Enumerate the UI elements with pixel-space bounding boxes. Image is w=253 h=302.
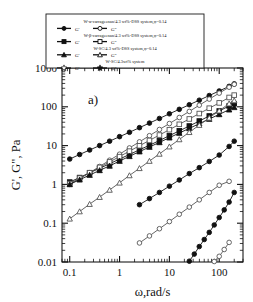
data-point-filled-circle xyxy=(197,98,202,103)
data-point-filled-circle xyxy=(197,244,202,249)
y-tick-label: 0.1 xyxy=(43,217,57,229)
data-point-open-circle xyxy=(197,103,202,108)
data-point-open-square xyxy=(187,117,192,122)
legend-item-label-0-1: G" xyxy=(111,27,117,32)
data-point-filled-circle xyxy=(137,125,142,130)
data-point-open-square xyxy=(98,40,102,44)
data-point-filled-circle xyxy=(117,134,122,139)
data-point-filled-circle xyxy=(227,200,232,205)
legend-item-label-1-0: G' xyxy=(75,40,80,45)
data-point-open-circle xyxy=(207,190,212,195)
x-tick-label: 0.1 xyxy=(63,266,77,278)
data-point-filled-circle xyxy=(87,148,92,153)
data-point-filled-circle xyxy=(217,153,222,158)
data-point-open-circle xyxy=(217,183,222,188)
data-point-open-circle xyxy=(177,115,182,120)
data-point-open-circle xyxy=(137,241,142,246)
data-point-open-circle xyxy=(217,91,222,96)
data-point-filled-circle xyxy=(212,223,217,228)
data-point-filled-circle xyxy=(97,143,102,148)
data-point-filled-circle xyxy=(77,152,82,157)
data-point-filled-circle xyxy=(227,144,232,149)
data-point-open-circle xyxy=(187,109,192,114)
data-point-filled-circle xyxy=(67,157,72,162)
data-point-open-circle xyxy=(147,234,152,239)
legend-item-label-1-1: G" xyxy=(111,40,117,45)
data-point-filled-circle xyxy=(127,130,132,135)
data-point-open-circle xyxy=(232,82,237,87)
data-point-open-square xyxy=(232,93,237,98)
data-point-filled-circle xyxy=(222,208,227,213)
data-point-filled-circle xyxy=(207,159,212,164)
data-point-filled-square xyxy=(62,40,66,44)
data-point-open-circle xyxy=(167,121,172,126)
x-tick-label: 1 xyxy=(117,266,123,278)
panel-label: a) xyxy=(88,92,98,107)
data-point-open-square xyxy=(147,138,152,143)
data-point-open-circle xyxy=(187,205,192,210)
data-point-filled-circle xyxy=(197,165,202,170)
data-point-filled-circle xyxy=(167,184,172,189)
data-point-filled-circle xyxy=(107,139,112,144)
chart-canvas: 0.11101000.010.11101001000ω,rad/sG', G",… xyxy=(0,0,253,302)
data-point-filled-circle xyxy=(217,215,222,220)
data-point-filled-circle xyxy=(187,102,192,107)
legend-item-label-2-0: G' xyxy=(75,53,80,58)
legend-item-label-3-1: G" xyxy=(111,66,117,71)
data-point-open-circle xyxy=(227,240,232,245)
legend-item-label-2-1: G" xyxy=(111,53,117,58)
data-point-open-circle xyxy=(207,97,212,102)
data-point-filled-circle xyxy=(147,196,152,201)
data-point-filled-circle xyxy=(157,190,162,195)
data-point-open-square xyxy=(137,143,142,148)
data-point-open-circle xyxy=(222,247,227,252)
data-point-open-circle xyxy=(177,212,182,217)
x-axis-label: ω,rad/s xyxy=(135,285,171,299)
y-axis-label: G', G", Pa xyxy=(9,139,23,190)
data-point-open-circle xyxy=(98,26,102,30)
data-point-open-square xyxy=(207,106,212,111)
data-point-filled-circle xyxy=(232,190,237,195)
y-tick-label: 10 xyxy=(46,139,58,151)
data-point-open-circle xyxy=(157,226,162,231)
data-point-open-circle xyxy=(227,179,232,184)
data-point-open-circle xyxy=(147,133,152,138)
legend-item-label-3-0: G' xyxy=(75,66,80,71)
data-point-filled-circle xyxy=(187,259,192,264)
data-point-filled-circle xyxy=(147,121,152,126)
legend-item-label-0-0: G' xyxy=(75,27,80,32)
y-tick-label: 100 xyxy=(41,100,58,112)
data-point-open-circle xyxy=(217,254,222,259)
y-tick-label: 1 xyxy=(52,178,58,190)
legend-system-label-3: W-SC/4.3wt% system xyxy=(106,59,145,64)
data-point-filled-circle xyxy=(192,252,197,257)
x-tick-label: 100 xyxy=(211,266,228,278)
data-point-filled-circle xyxy=(137,202,142,207)
data-point-filled-circle xyxy=(177,178,182,183)
data-point-open-square xyxy=(197,111,202,116)
figure-container: 0.11101000.010.11101001000ω,rad/sG', G",… xyxy=(0,0,253,302)
x-tick-label: 10 xyxy=(164,266,176,278)
y-tick-label: 0.01 xyxy=(38,256,57,268)
data-point-open-circle xyxy=(227,85,232,90)
data-point-open-circle xyxy=(212,259,217,264)
data-point-open-square xyxy=(167,127,172,132)
data-point-open-square xyxy=(217,101,222,106)
data-point-filled-circle xyxy=(177,107,182,112)
data-point-filled-circle xyxy=(202,237,207,242)
data-point-open-square xyxy=(227,95,232,100)
data-point-filled-circle xyxy=(187,171,192,176)
data-point-open-circle xyxy=(157,127,162,132)
data-point-filled-circle xyxy=(207,230,212,235)
data-point-open-circle xyxy=(167,219,172,224)
data-point-filled-circle xyxy=(167,112,172,117)
data-point-filled-circle xyxy=(232,139,237,144)
data-point-open-square xyxy=(157,133,162,138)
data-point-filled-circle xyxy=(62,26,66,30)
data-point-filled-circle xyxy=(157,116,162,121)
data-point-open-square xyxy=(177,122,182,127)
data-point-open-circle xyxy=(197,198,202,203)
